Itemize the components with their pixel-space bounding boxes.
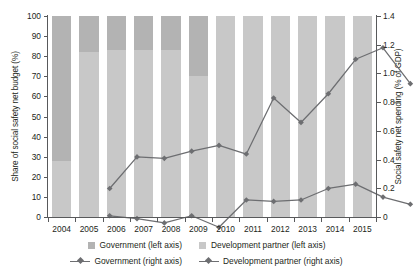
x-tick (130, 218, 131, 222)
x-tick (185, 218, 186, 222)
line-development-partner-right-axis (110, 184, 411, 227)
x-tick (321, 218, 322, 222)
y-tick-right (377, 73, 381, 74)
legend-item[interactable]: Government (left axis) (88, 240, 182, 250)
x-tick-label: 2010 (211, 224, 241, 234)
data-point-marker (353, 181, 359, 187)
y-tick-right (377, 45, 381, 46)
y-tick-label-left: 30 (32, 152, 41, 162)
x-tick-label: 2009 (183, 224, 213, 234)
x-tick (157, 218, 158, 222)
x-tick (48, 218, 49, 222)
x-tick (239, 218, 240, 222)
y-tick-right (377, 217, 381, 218)
bar-segment-development-partner (52, 161, 71, 217)
legend-diamond-icon (77, 257, 84, 264)
x-tick (349, 218, 350, 222)
y-tick-left (44, 117, 48, 118)
y-tick-left (44, 56, 48, 57)
y-tick-label-left: 80 (32, 51, 41, 61)
y-tick-left (44, 36, 48, 37)
y-tick-label-right: 1.4 (383, 11, 395, 21)
x-tick-label: 2004 (47, 224, 77, 234)
x-tick (294, 218, 295, 222)
legend-label: Government (left axis) (100, 240, 182, 250)
legend-label: Development partner (left axis) (211, 240, 326, 250)
y-tick-right (377, 102, 381, 103)
y-tick-right (377, 188, 381, 189)
y-tick-label-left: 0 (36, 212, 41, 222)
x-tick-label: 2012 (265, 224, 295, 234)
legend-item[interactable]: Development partner (right axis) (199, 256, 343, 266)
legend-item[interactable]: Development partner (left axis) (199, 240, 326, 250)
y-tick-right (377, 131, 381, 132)
x-tick-label: 2006 (101, 224, 131, 234)
y-tick-left (44, 157, 48, 158)
x-tick-label: 2011 (238, 224, 268, 234)
x-tick (212, 218, 213, 222)
x-tick-label: 2007 (129, 224, 159, 234)
y-tick-left (44, 96, 48, 97)
data-point-marker (244, 151, 250, 157)
y-tick-label-left: 90 (32, 31, 41, 41)
data-point-marker (298, 197, 304, 203)
legend-diamond-icon (205, 257, 212, 264)
legend-swatch-icon (199, 242, 206, 249)
diamond-icon (70, 257, 90, 265)
y-axis-left-title: Share of social safety net budget (%) (11, 42, 20, 192)
y-tick-label-left: 100 (27, 11, 41, 21)
data-point-marker (380, 194, 386, 200)
legend-row-bars: Government (left axis)Development partne… (0, 237, 413, 253)
line-series-layer (96, 32, 418, 233)
x-tick-label: 2015 (347, 224, 377, 234)
data-point-marker (216, 143, 222, 149)
y-tick-label-left: 20 (32, 172, 41, 182)
y-tick-left (44, 76, 48, 77)
y-tick-label-left: 10 (32, 192, 41, 202)
y-tick-label-right: 0.2 (383, 183, 395, 193)
legend-label: Development partner (right axis) (223, 256, 343, 266)
y-tick-left (44, 197, 48, 198)
plot-area (48, 16, 376, 217)
y-tick-left (44, 217, 48, 218)
y-tick-label-right: 0.4 (383, 155, 395, 165)
x-tick (75, 218, 76, 222)
x-tick (103, 218, 104, 222)
y-tick-label-left: 70 (32, 71, 41, 81)
x-tick (267, 218, 268, 222)
y-tick-label-right: 0.8 (383, 97, 395, 107)
y-tick-label-left: 50 (32, 112, 41, 122)
x-tick-label: 2014 (320, 224, 350, 234)
data-point-marker (189, 148, 195, 154)
legend-row-lines: Government (right axis)Development partn… (0, 253, 413, 269)
legend-label: Government (right axis) (94, 256, 182, 266)
data-point-marker (326, 186, 332, 192)
diamond-icon (199, 257, 219, 265)
y-tick-right (377, 16, 381, 17)
x-tick (376, 218, 377, 222)
data-point-marker (271, 199, 277, 205)
legend-item[interactable]: Government (right axis) (70, 256, 182, 266)
data-point-marker (162, 156, 168, 162)
x-tick-label: 2008 (156, 224, 186, 234)
data-point-marker (408, 201, 414, 207)
chart-legend: Government (left axis)Development partne… (0, 237, 413, 269)
y-tick-label-right: 0 (383, 212, 388, 222)
y-tick-left (44, 137, 48, 138)
bar-segment-government (52, 16, 71, 161)
y-tick-right (377, 160, 381, 161)
y-tick-left (44, 177, 48, 178)
legend-swatch-icon (88, 242, 95, 249)
y-tick-left (44, 16, 48, 17)
line-government-right-axis (110, 48, 411, 189)
y-tick-label-left: 60 (32, 91, 41, 101)
x-tick-label: 2005 (74, 224, 104, 234)
y-tick-label-right: 1.2 (383, 40, 395, 50)
y-tick-label-right: 1.0 (383, 68, 395, 78)
x-tick-label: 2013 (293, 224, 323, 234)
y-tick-label-right: 0.6 (383, 126, 395, 136)
y-tick-label-left: 40 (32, 132, 41, 142)
bar-group (52, 16, 71, 217)
